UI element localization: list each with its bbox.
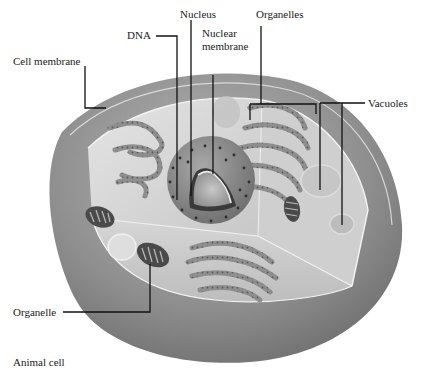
label-organelles: Organelles <box>256 8 303 21</box>
label-vacuoles: Vacuoles <box>368 97 408 110</box>
label-nucleus: Nucleus <box>180 8 216 21</box>
label-nuclear-membrane-line1: Nuclear <box>202 27 237 40</box>
label-dna: DNA <box>127 29 151 42</box>
label-cell-membrane: Cell membrane <box>13 55 81 68</box>
label-organelle: Organelle <box>13 306 56 319</box>
label-nuclear-membrane-line2: membrane <box>202 40 248 53</box>
figure-caption: Animal cell <box>13 356 65 368</box>
nucleus <box>167 136 255 224</box>
animal-cell-diagram: Nucleus DNA Nuclear membrane Organelles … <box>0 0 423 378</box>
